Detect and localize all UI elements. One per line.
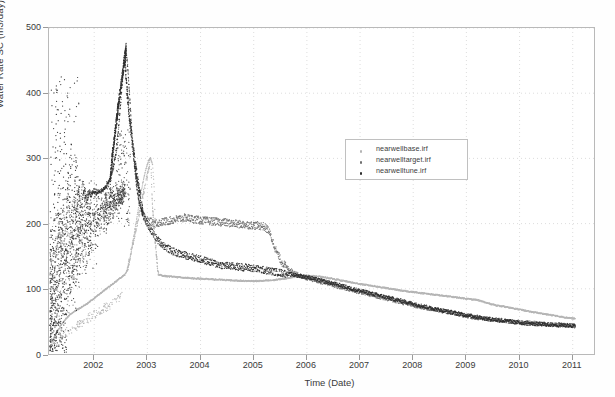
y-tick-label: 0: [36, 350, 41, 360]
x-tick-label: 2007: [349, 360, 369, 370]
x-axis-label: Time (Date): [0, 377, 615, 388]
y-tick-label: 100: [26, 284, 41, 294]
x-tick-label: 2002: [83, 360, 103, 370]
x-tick-mark: [253, 355, 254, 360]
legend-marker-icon: [346, 145, 376, 153]
x-tick-mark: [412, 355, 413, 360]
x-tick-mark: [306, 355, 307, 360]
x-tick-label: 2008: [402, 360, 422, 370]
x-tick-mark: [519, 355, 520, 360]
legend-label: nearwelltune.irf: [376, 166, 426, 175]
chart-root: 500 400 300 200 100 0 Water Rate SC (m3/…: [0, 0, 615, 397]
legend-item-nearwellbase: nearwellbase.irf: [346, 143, 467, 154]
legend-marker-icon: [346, 167, 376, 175]
plot-area: [48, 27, 595, 355]
x-tick-mark: [359, 355, 360, 360]
x-tick-mark: [93, 355, 94, 360]
y-axis-label: Water Rate SC (m3/day): [0, 0, 5, 108]
legend-item-nearwelltune: nearwelltune.irf: [346, 165, 467, 176]
y-tick-label: 400: [26, 88, 41, 98]
x-tick-label: 2003: [136, 360, 156, 370]
chart-legend: nearwellbase.irf nearwelltarget.irf near…: [345, 139, 468, 180]
y-axis: 500 400 300 200 100 0: [0, 0, 48, 397]
y-tick-label: 300: [26, 153, 41, 163]
legend-marker-icon: [346, 156, 376, 164]
y-tick-mark: [43, 355, 48, 356]
x-tick-label: 2005: [243, 360, 263, 370]
x-tick-label: 2010: [509, 360, 529, 370]
x-tick-label: 2006: [296, 360, 316, 370]
x-tick-mark: [200, 355, 201, 360]
x-tick-label: 2004: [190, 360, 210, 370]
y-tick-label: 500: [26, 22, 41, 32]
legend-label: nearwelltarget.irf: [376, 155, 431, 164]
x-tick-label: 2009: [455, 360, 475, 370]
legend-label: nearwellbase.irf: [376, 144, 428, 153]
x-tick-label: 2011: [562, 360, 581, 370]
x-tick-mark: [146, 355, 147, 360]
y-tick-label: 200: [26, 219, 41, 229]
x-tick-mark: [572, 355, 573, 360]
chart-canvas: [49, 28, 594, 354]
x-tick-mark: [465, 355, 466, 360]
legend-item-nearwelltarget: nearwelltarget.irf: [346, 154, 467, 165]
x-axis-label-text: Time (Date): [305, 377, 355, 388]
